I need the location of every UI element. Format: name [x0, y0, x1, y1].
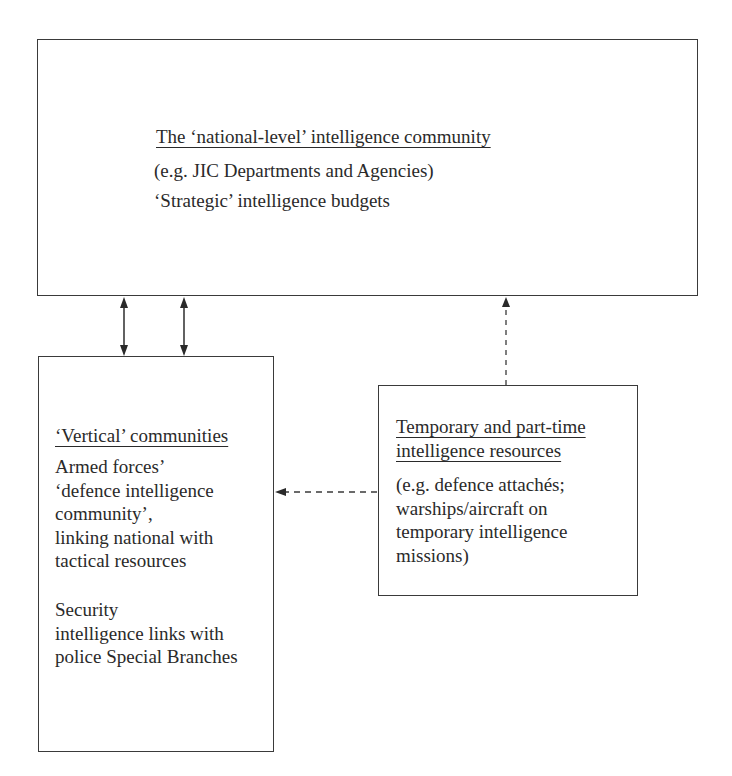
armed-forces-description: Armed forces’ ‘defence intelligence comm… [55, 455, 214, 573]
arrowhead-up-icon [502, 297, 510, 307]
armed-forces-line: tactical resources [55, 549, 214, 573]
temporary-example-line: warships/aircraft on [396, 497, 567, 521]
temporary-resources-examples: (e.g. defence attachés; warships/aircraf… [396, 473, 567, 567]
dashed-arrow-temporary-to-national [502, 297, 510, 385]
arrowhead-down-icon [180, 345, 188, 356]
national-level-examples: (e.g. JIC Departments and Agencies) [154, 159, 434, 183]
temporary-example-line: missions) [396, 544, 567, 568]
national-level-heading: The ‘national-level’ intelligence commun… [156, 125, 491, 149]
temporary-resources-heading-line2: intelligence resources [396, 439, 561, 463]
security-line: police Special Branches [55, 645, 238, 669]
temporary-example-line: temporary intelligence [396, 520, 567, 544]
security-intelligence-description: Security intelligence links with police … [55, 598, 238, 669]
double-arrow-connector-1 [120, 297, 128, 356]
dashed-arrow-temporary-to-vertical [275, 488, 377, 496]
vertical-communities-heading: ‘Vertical’ communities [55, 424, 228, 448]
double-arrow-connector-2 [180, 297, 188, 356]
armed-forces-line: linking national with [55, 526, 214, 550]
arrowhead-up-icon [180, 297, 188, 308]
armed-forces-line: ‘defence intelligence [55, 479, 214, 503]
arrowhead-up-icon [120, 297, 128, 308]
arrowhead-down-icon [120, 345, 128, 356]
temporary-resources-heading-line1: Temporary and part-time [396, 415, 586, 439]
security-line: Security [55, 598, 238, 622]
national-level-budgets: ‘Strategic’ intelligence budgets [154, 189, 390, 213]
arrowhead-left-icon [275, 488, 286, 496]
armed-forces-line: Armed forces’ [55, 455, 214, 479]
temporary-example-line: (e.g. defence attachés; [396, 473, 567, 497]
armed-forces-line: community’, [55, 502, 214, 526]
security-line: intelligence links with [55, 622, 238, 646]
